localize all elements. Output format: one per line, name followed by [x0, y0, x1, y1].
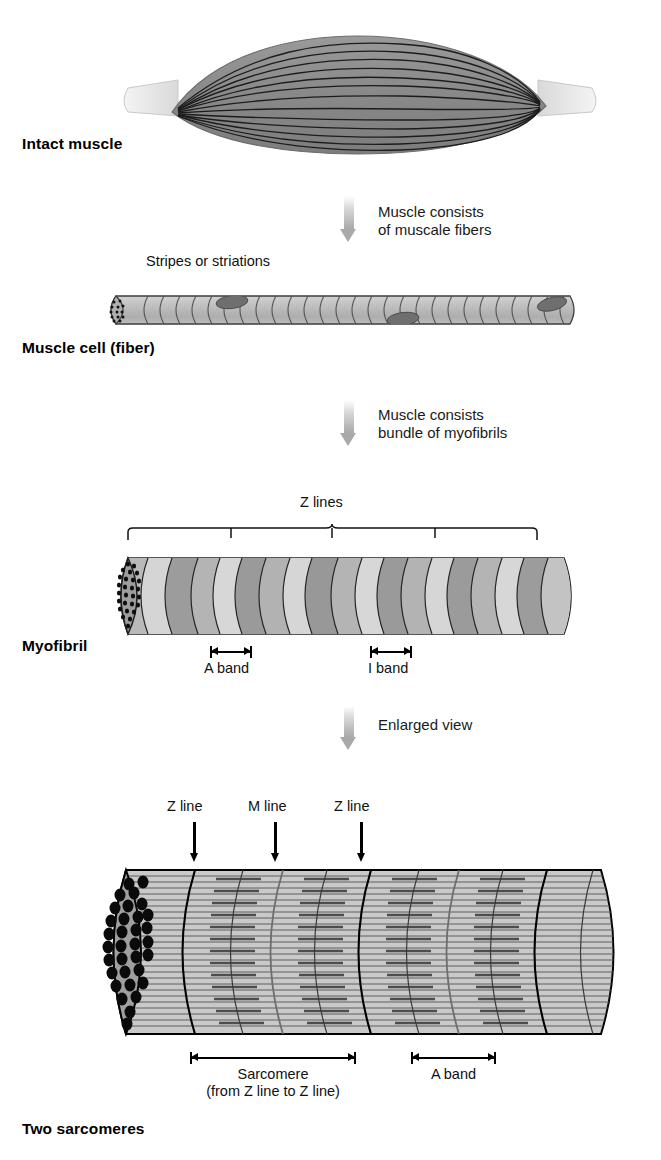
- flow-arrow-muscle-to-fiber: [340, 196, 357, 242]
- flow-arrow-enlarged-view: [340, 706, 357, 750]
- muscle-cell-illustration: [100, 286, 590, 344]
- myofibril-illustration: [106, 552, 586, 640]
- stage-label-muscle-cell: Muscle cell (fiber): [22, 339, 155, 357]
- tendon-left: [124, 80, 178, 116]
- annotation-stripes-or-striations: Stripes or striations: [146, 253, 270, 269]
- pointer-arrow-z-line-left: [190, 822, 199, 862]
- measure-bar-a-band-myofibril: [210, 646, 252, 658]
- myofibril-bands: [121, 558, 571, 634]
- label-z-line-left: Z line: [167, 798, 202, 814]
- label-m-line: M line: [248, 798, 287, 814]
- transition-note-fiber-to-myofibril: Muscle consists bundle of myofibrils: [378, 406, 507, 442]
- transition-note-muscle-to-fiber: Muscle consists of muscale fibers: [378, 203, 491, 239]
- muscle-cell-body: [111, 296, 574, 324]
- label-a-band-myofibril: A band: [204, 660, 249, 676]
- stage-label-two-sarcomeres: Two sarcomeres: [22, 1120, 145, 1138]
- sarcomere-illustration: [96, 862, 641, 1044]
- stage-label-intact-muscle: Intact muscle: [22, 135, 122, 153]
- label-i-band-myofibril: I band: [368, 660, 408, 676]
- transition-note-enlarged-view: Enlarged view: [378, 716, 472, 734]
- label-sarcomere: Sarcomere (from Z line to Z line): [163, 1066, 383, 1100]
- tendon-right: [538, 80, 596, 116]
- muscle-structure-figure: Intact muscle Muscle consists of muscale…: [0, 0, 661, 1160]
- measure-bar-a-band-sarcomere: [411, 1052, 496, 1064]
- measure-bar-i-band-myofibril: [370, 646, 412, 658]
- z-lines-bracket: [126, 524, 546, 542]
- flow-arrow-fiber-to-myofibril: [340, 400, 357, 446]
- label-a-band-sarcomere: A band: [406, 1066, 501, 1083]
- label-z-line-right: Z line: [334, 798, 369, 814]
- annotation-z-lines: Z lines: [300, 494, 343, 510]
- measure-bar-sarcomere: [190, 1052, 356, 1064]
- pointer-arrow-m-line: [271, 822, 280, 862]
- stage-label-myofibril: Myofibril: [22, 637, 87, 655]
- pointer-arrow-z-line-right: [357, 822, 366, 862]
